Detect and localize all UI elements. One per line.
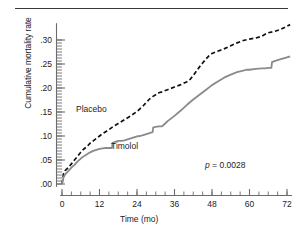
figure-container: Cumulative mortality rate Time (mo) .00 … <box>0 0 303 235</box>
y-tick-label-0-00: .00 <box>30 179 52 189</box>
x-tick-label-48: 48 <box>202 199 222 209</box>
y-tick-label-0-20: .20 <box>30 83 52 93</box>
y-tick-label-0-05: .05 <box>30 155 52 165</box>
x-tick-label-72: 72 <box>277 199 297 209</box>
x-tick-label-12: 12 <box>90 199 110 209</box>
series-label-timolol: Timolol <box>111 141 138 151</box>
p-value-annotation: p = 0.0028 <box>205 160 245 170</box>
x-tick-label-24: 24 <box>127 199 147 209</box>
series-line-timolol <box>62 56 290 184</box>
y-tick-label-0-30: .30 <box>30 35 52 45</box>
y-tick-label-0-25: .25 <box>30 59 52 69</box>
p-value-number: = 0.0028 <box>210 160 246 170</box>
x-tick-label-60: 60 <box>240 199 260 209</box>
y-axis <box>57 23 66 187</box>
y-tick-label-0-10: .10 <box>30 131 52 141</box>
series-label-placebo: Placebo <box>76 104 107 114</box>
x-tick-label-36: 36 <box>165 199 185 209</box>
y-tick-label-0-15: .15 <box>30 107 52 117</box>
y-axis-title: Cumulative mortality rate <box>23 0 33 143</box>
x-axis-title: Time (mo) <box>120 214 158 224</box>
x-axis <box>60 189 292 196</box>
x-tick-label-0: 0 <box>52 199 72 209</box>
